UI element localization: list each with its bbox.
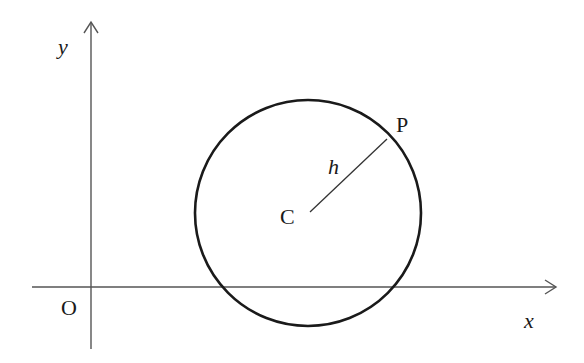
x-axis-label: x	[523, 308, 534, 333]
center-label: C	[280, 204, 295, 229]
coordinate-diagram: y x O C P h	[0, 0, 584, 363]
circle	[195, 100, 421, 326]
point-label: P	[396, 112, 408, 137]
radius-segment	[310, 139, 387, 212]
radius-label: h	[328, 154, 339, 179]
y-axis-label: y	[56, 34, 68, 59]
origin-label: O	[61, 295, 77, 320]
x-axis	[32, 280, 556, 294]
y-axis	[84, 22, 98, 349]
